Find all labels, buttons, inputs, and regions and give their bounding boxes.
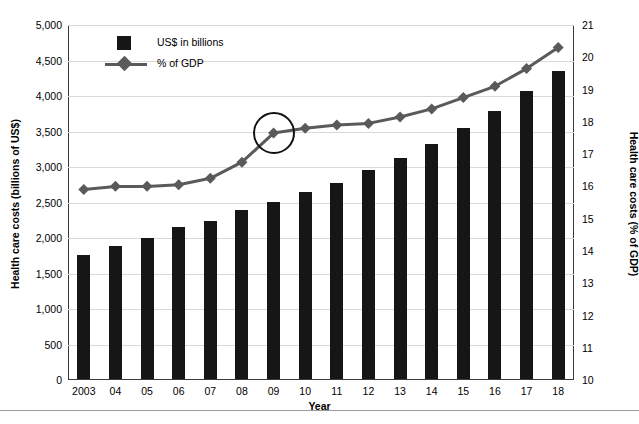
legend-label-bars: US$ in billions xyxy=(157,36,224,48)
legend-line-diamond-icon xyxy=(105,54,151,75)
y-tick-right-10: 10 xyxy=(582,375,622,386)
y-tick-right-18: 18 xyxy=(582,117,622,128)
line-series xyxy=(68,25,574,380)
y-tick-left-1500: 1,500 xyxy=(2,269,62,280)
line-marker-05 xyxy=(142,181,153,192)
y-tick-right-14: 14 xyxy=(582,246,622,257)
legend-item-line: % of GDP xyxy=(105,54,285,75)
y-tick-left-500: 500 xyxy=(2,340,62,351)
y-tick-left-1000: 1,000 xyxy=(2,304,62,315)
y-tick-right-11: 11 xyxy=(582,343,622,354)
line-marker-13 xyxy=(395,111,406,122)
y-tick-left-5000: 5,000 xyxy=(2,20,62,31)
y-tick-right-20: 20 xyxy=(582,52,622,63)
y-tick-right-19: 19 xyxy=(582,85,622,96)
y-tick-left-0: 0 xyxy=(2,375,62,386)
line-marker-14 xyxy=(426,103,437,114)
y-tick-left-3000: 3,000 xyxy=(2,162,62,173)
line-marker-06 xyxy=(173,179,184,190)
legend-square-swatch-icon xyxy=(105,33,151,54)
line-marker-15 xyxy=(458,92,469,103)
y-tick-right-16: 16 xyxy=(582,181,622,192)
x-tick-18: 18 xyxy=(538,386,578,397)
y-axis-right-title: Health care costs (% of GDP) xyxy=(628,104,639,304)
line-marker-04 xyxy=(110,181,121,192)
y-tick-left-4500: 4,500 xyxy=(2,56,62,67)
chart-legend: US$ in billions % of GDP xyxy=(105,33,285,75)
y-tick-right-12: 12 xyxy=(582,311,622,322)
y-tick-right-13: 13 xyxy=(582,278,622,289)
line-marker-07 xyxy=(205,173,216,184)
chart-figure: Health care costs (billions of US$) Heal… xyxy=(0,0,639,424)
y-tick-right-17: 17 xyxy=(582,149,622,160)
line-marker-12 xyxy=(363,118,374,129)
y-tick-left-2500: 2,500 xyxy=(2,198,62,209)
y-tick-right-21: 21 xyxy=(582,20,622,31)
plot-area xyxy=(68,25,574,380)
line-marker-2003 xyxy=(78,184,89,195)
legend-label-line: % of GDP xyxy=(157,57,204,69)
legend-item-bars: US$ in billions xyxy=(105,33,285,54)
y-tick-right-15: 15 xyxy=(582,214,622,225)
footer-divider xyxy=(0,410,639,411)
y-tick-left-4000: 4,000 xyxy=(2,91,62,102)
line-marker-10 xyxy=(300,123,311,134)
y-tick-left-2000: 2,000 xyxy=(2,233,62,244)
y-tick-left-3500: 3,500 xyxy=(2,127,62,138)
highlight-circle-annotation xyxy=(253,112,295,154)
line-marker-11 xyxy=(331,120,342,131)
